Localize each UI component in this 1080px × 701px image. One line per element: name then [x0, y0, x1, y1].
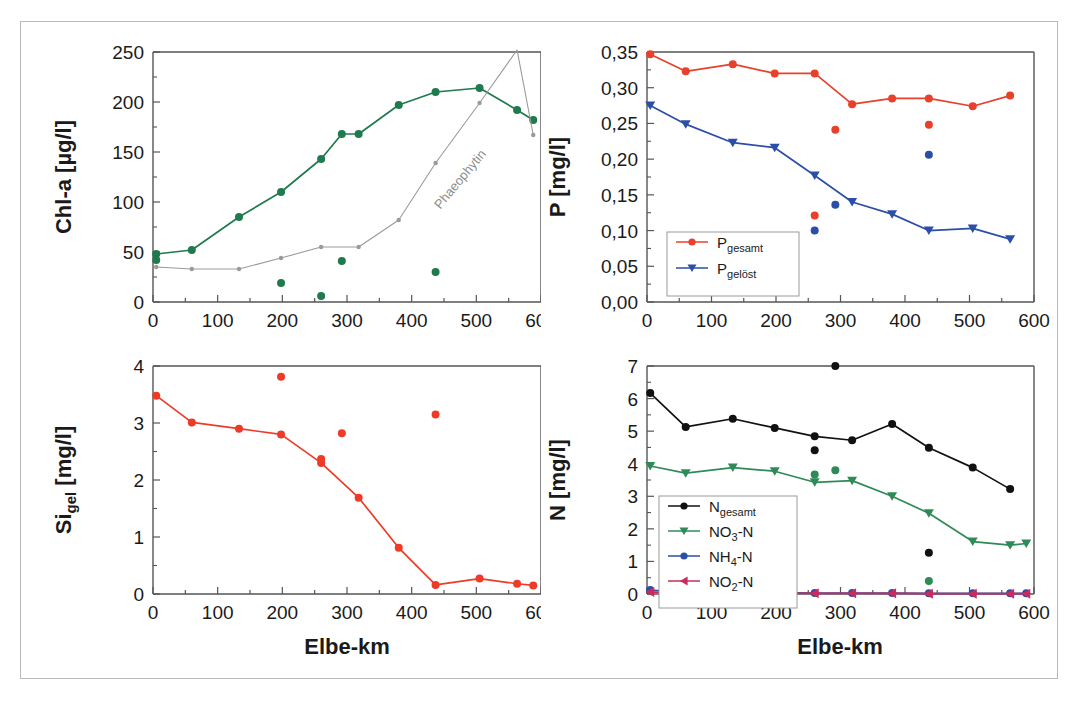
data-point: [831, 126, 839, 134]
data-point: [338, 429, 346, 437]
data-point: [277, 373, 285, 381]
x-axis-tick-label: 200: [266, 602, 298, 623]
x-axis-tick-label: 500: [460, 602, 492, 623]
legend-marker: [680, 552, 687, 559]
x-axis-tick-label: 100: [202, 602, 234, 623]
data-point: [925, 444, 933, 452]
data-point: [811, 212, 819, 220]
y-axis-label: P [mg/l]: [545, 137, 570, 217]
data-point: [811, 446, 819, 454]
data-point: [925, 577, 933, 585]
series-p-gel-st: [645, 102, 1015, 244]
svg-text:P [mg/l]: P [mg/l]: [545, 137, 570, 217]
svg-text:Chl-a [µg/l]: Chl-a [µg/l]: [51, 120, 76, 234]
data-point: [771, 69, 779, 77]
series-line: [650, 106, 1010, 240]
chart-phosphorus: 01002003004005006000,000,050,100,150,200…: [539, 34, 1059, 354]
y-axis-tick-label: 100: [112, 192, 144, 213]
data-point: [152, 392, 160, 400]
data-point: [338, 130, 346, 138]
y-axis-tick-label: 3: [627, 486, 638, 507]
data-point: [831, 362, 839, 370]
data-point: [925, 94, 933, 102]
data-point: [1005, 235, 1015, 244]
y-axis-tick-label: 0: [133, 292, 144, 313]
y-axis-tick-label: 0,00: [601, 292, 638, 313]
data-point: [682, 423, 690, 431]
data-point: [355, 130, 363, 138]
y-axis-tick-label: 4: [627, 454, 638, 475]
data-point: [317, 155, 325, 163]
data-point: [811, 227, 819, 235]
series-chl-a-einzelwerte: [152, 256, 439, 300]
y-axis-tick-label: 6: [627, 389, 638, 410]
data-point: [811, 470, 819, 478]
y-axis-label: N [mg/l]: [545, 439, 570, 521]
data-point: [432, 88, 440, 96]
x-axis-tick-label: 400: [889, 602, 921, 623]
y-axis-tick-label: 0,30: [601, 78, 638, 99]
y-axis-tick-label: 0,25: [601, 113, 638, 134]
data-point: [154, 265, 158, 269]
series-si-gel-st: [152, 392, 537, 590]
y-axis-tick-label: 2: [627, 519, 638, 540]
data-point: [848, 436, 856, 444]
data-point: [355, 494, 363, 502]
data-point: [925, 151, 933, 159]
data-point: [188, 418, 196, 426]
data-point: [432, 581, 440, 589]
y-axis-tick-label: 4: [133, 356, 144, 377]
data-point: [811, 432, 819, 440]
panel-chla: 0100200300400500600050100150200250Phaeop…: [41, 34, 541, 354]
data-point: [1006, 485, 1014, 493]
data-point: [513, 580, 521, 588]
data-point: [925, 549, 933, 557]
y-axis-tick-label: 50: [123, 242, 144, 263]
data-point: [356, 245, 360, 249]
y-axis-tick-label: 0,20: [601, 149, 638, 170]
data-point: [646, 389, 654, 397]
data-point: [729, 60, 737, 68]
x-axis-tick-label: 400: [396, 310, 428, 331]
x-axis-tick-label: 500: [954, 310, 986, 331]
data-point: [476, 575, 484, 583]
x-axis-tick-label: 600: [1018, 602, 1050, 623]
data-point: [969, 102, 977, 110]
x-axis-tick-label: 0: [642, 602, 653, 623]
data-point: [477, 101, 481, 105]
x-axis-tick-label: 400: [396, 602, 428, 623]
data-point: [237, 267, 241, 271]
y-axis-tick-label: 2: [133, 470, 144, 491]
y-axis-tick-label: 3: [133, 413, 144, 434]
series-line: [650, 393, 1010, 489]
x-axis-tick-label: 300: [825, 310, 857, 331]
x-axis-tick-label: 0: [148, 310, 159, 331]
data-point: [190, 267, 194, 271]
data-point: [513, 106, 521, 114]
data-point: [317, 292, 325, 300]
x-axis-tick-label: 200: [266, 310, 298, 331]
legend-marker: [680, 502, 687, 509]
data-point: [887, 492, 897, 501]
x-axis-tick-label: 300: [331, 602, 363, 623]
data-point: [531, 133, 535, 137]
data-point: [433, 161, 437, 165]
data-point: [771, 424, 779, 432]
data-point: [888, 94, 896, 102]
x-axis-label: Elbe-km: [304, 634, 390, 659]
x-axis-tick-label: 100: [202, 310, 234, 331]
data-point: [397, 218, 401, 222]
data-point: [277, 188, 285, 196]
y-axis-tick-label: 0: [133, 584, 144, 605]
x-axis-tick-label: 100: [696, 310, 728, 331]
y-axis-tick-label: 0,15: [601, 185, 638, 206]
data-point: [925, 121, 933, 129]
data-point: [432, 268, 440, 276]
x-axis-tick-label: 0: [642, 310, 653, 331]
x-axis-tick-label: 300: [825, 602, 857, 623]
legend-marker: [688, 238, 695, 245]
svg-text:N [mg/l]: N [mg/l]: [545, 439, 570, 521]
figure-border: 0100200300400500600050100150200250Phaeop…: [20, 21, 1058, 679]
chart-chla: 0100200300400500600050100150200250Phaeop…: [41, 34, 541, 354]
x-axis-tick-label: 500: [954, 602, 986, 623]
